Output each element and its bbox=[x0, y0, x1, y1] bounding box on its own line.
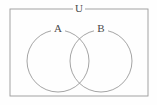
set-b-label: B bbox=[97, 22, 104, 34]
venn-diagram-figure: U A B bbox=[0, 0, 157, 105]
set-a-label: A bbox=[54, 22, 62, 34]
venn-diagram-canvas: U A B bbox=[0, 0, 157, 105]
universal-set-label: U bbox=[75, 2, 83, 14]
figure-background bbox=[0, 0, 157, 105]
